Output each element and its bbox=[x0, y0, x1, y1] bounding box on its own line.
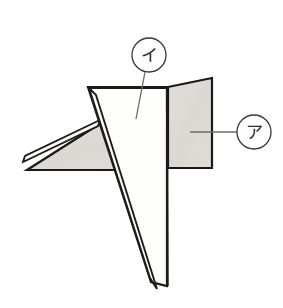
center-face-right-edge bbox=[167, 87, 168, 286]
part-right-panel bbox=[168, 78, 212, 168]
callout-i[interactable]: イ bbox=[132, 38, 166, 72]
callout-i-label: イ bbox=[141, 45, 158, 65]
callout-a[interactable]: ア bbox=[237, 115, 271, 149]
technical-drawing: ア イ bbox=[0, 0, 283, 308]
callout-a-label: ア bbox=[246, 122, 263, 142]
figure-container: ア イ bbox=[0, 0, 283, 308]
